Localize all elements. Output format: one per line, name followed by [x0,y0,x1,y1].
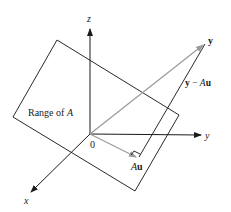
x-axis-label: x [23,195,29,206]
range-of-text: Range of [28,107,67,118]
x-axis [31,134,90,192]
residual-minus: − [190,78,200,88]
range-of-a-label: Range of A [28,107,74,118]
origin-label: 0 [90,139,95,150]
residual-label: y − Au [185,78,212,88]
residual-line [139,44,205,157]
right-angle-marker [131,151,140,155]
projection-u: u [137,161,143,172]
residual-u: u [206,78,212,88]
vector-y-label: y [208,35,213,46]
projection-diagram: z y x 0 Range of A y y − Au Au [0,0,231,212]
vector-y [90,45,203,134]
z-axis-label: z [86,13,91,24]
y-axis-label: y [204,130,210,141]
projection-label: Au [130,161,143,172]
matrix-a-text: A [66,107,74,118]
vector-Au [90,134,136,157]
y-axis [90,134,201,135]
